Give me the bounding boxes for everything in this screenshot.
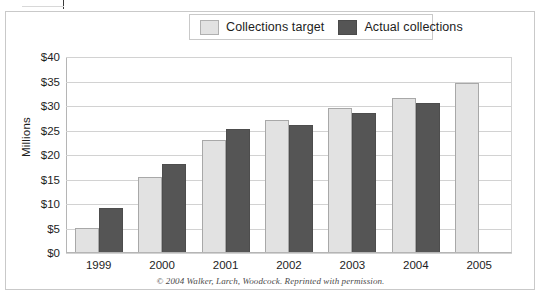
legend-item-collections-target: Collections target (200, 20, 324, 35)
plot-area-wrapper: $40$35$30$25$20$15$10$5$0 19992000200120… (66, 57, 512, 253)
x-axis-tick-label-2004: 2004 (384, 259, 447, 271)
y-axis-tick-label: $20 (41, 149, 60, 161)
legend-label-target: Collections target (226, 20, 324, 34)
y-axis-tick-label: $15 (41, 174, 60, 186)
x-axis-tick-label-2005: 2005 (448, 259, 511, 271)
y-axis-tick-label: $35 (41, 76, 60, 88)
bar-actual-2001 (226, 129, 250, 252)
scan-artifact (22, 0, 64, 9)
bar-actual-2003 (352, 113, 376, 252)
bar-group-2005: 2005 (448, 57, 511, 252)
x-axis-tick-label-2003: 2003 (321, 259, 384, 271)
y-axis-tick-label: $30 (41, 100, 60, 112)
bar-target-2003 (328, 108, 352, 252)
y-axis-tick-label: $10 (41, 198, 60, 210)
x-axis-tick-label-2002: 2002 (257, 259, 320, 271)
bar-group-2001: 2001 (194, 57, 257, 252)
y-axis-title: Millions (20, 102, 32, 172)
bar-group-1999: 1999 (67, 57, 130, 252)
bar-target-2002 (265, 120, 289, 252)
copyright-credit: © 2004 Walker, Larch, Woodcock. Reprinte… (0, 276, 541, 286)
y-axis-tick-label: $25 (41, 125, 60, 137)
x-axis-tick-label-2000: 2000 (130, 259, 193, 271)
bar-target-2000 (138, 177, 162, 252)
bar-group-2002: 2002 (257, 57, 320, 252)
bar-group-2004: 2004 (384, 57, 447, 252)
legend-label-actual: Actual collections (364, 20, 462, 34)
legend-item-actual-collections: Actual collections (338, 20, 462, 35)
bar-actual-1999 (99, 208, 123, 252)
bar-actual-2002 (289, 125, 313, 252)
y-axis-tick-label: $40 (41, 51, 60, 63)
bar-target-2004 (392, 98, 416, 252)
bars-layer: 1999200020012002200320042005 (67, 57, 511, 252)
y-axis-tick-label: $0 (47, 247, 60, 259)
bar-group-2003: 2003 (321, 57, 384, 252)
x-axis-tick-label-1999: 1999 (67, 259, 130, 271)
bar-target-1999 (75, 228, 99, 252)
chart-legend: Collections target Actual collections (189, 14, 433, 40)
bar-actual-2000 (162, 164, 186, 252)
bar-target-2001 (202, 140, 226, 252)
x-axis-tick-label-2001: 2001 (194, 259, 257, 271)
bar-target-2005 (455, 83, 479, 252)
bar-actual-2004 (416, 103, 440, 252)
gridline: $0 (66, 253, 512, 254)
chart-figure: Collections target Actual collections Mi… (0, 0, 541, 298)
legend-swatch-icon-target (200, 20, 219, 35)
y-axis-tick-label: $5 (47, 223, 60, 235)
legend-swatch-icon-actual (338, 20, 357, 35)
bar-group-2000: 2000 (130, 57, 193, 252)
